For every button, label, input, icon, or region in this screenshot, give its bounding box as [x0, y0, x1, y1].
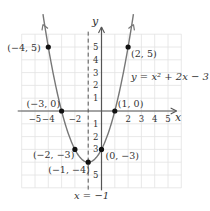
svg-text:(−3, 0): (−3, 0) [27, 98, 61, 109]
svg-text:(0, −3): (0, −3) [106, 150, 140, 161]
svg-text:3: 3 [93, 68, 98, 78]
svg-text:4: 4 [152, 114, 157, 124]
y-axis-label: y [91, 15, 99, 28]
equation-label: y = x² + 2x − 3 [130, 71, 209, 82]
svg-text:(−2, −3): (−2, −3) [33, 149, 74, 160]
symmetry-label: x = −1 [74, 190, 109, 201]
svg-text:5: 5 [93, 170, 98, 180]
svg-text:−2: −2 [69, 114, 82, 124]
svg-text:5: 5 [165, 114, 170, 124]
svg-text:(−4, 5): (−4, 5) [7, 42, 41, 53]
svg-text:2: 2 [125, 114, 130, 124]
x-axis-label: x [175, 111, 182, 124]
svg-text:3: 3 [139, 114, 144, 124]
svg-text:(−1, −4): (−1, −4) [48, 164, 89, 175]
svg-text:(1, 0): (1, 0) [118, 98, 144, 109]
svg-text:1: 1 [93, 119, 98, 129]
svg-text:3: 3 [93, 144, 98, 154]
svg-text:4: 4 [93, 55, 98, 65]
svg-text:1: 1 [93, 93, 98, 103]
svg-text:(2, 5): (2, 5) [131, 48, 157, 59]
parabola-chart: −5−4−22345543211235 (−4, 5)(2, 5)(−3, 0)… [0, 0, 210, 211]
svg-text:5: 5 [93, 42, 98, 52]
points: (−4, 5)(2, 5)(−3, 0)(1, 0)(−2, −3)(0, −3… [7, 42, 156, 175]
svg-text:−4: −4 [42, 114, 55, 124]
svg-text:2: 2 [93, 80, 98, 90]
svg-text:−5: −5 [29, 114, 42, 124]
svg-text:2: 2 [93, 132, 98, 142]
